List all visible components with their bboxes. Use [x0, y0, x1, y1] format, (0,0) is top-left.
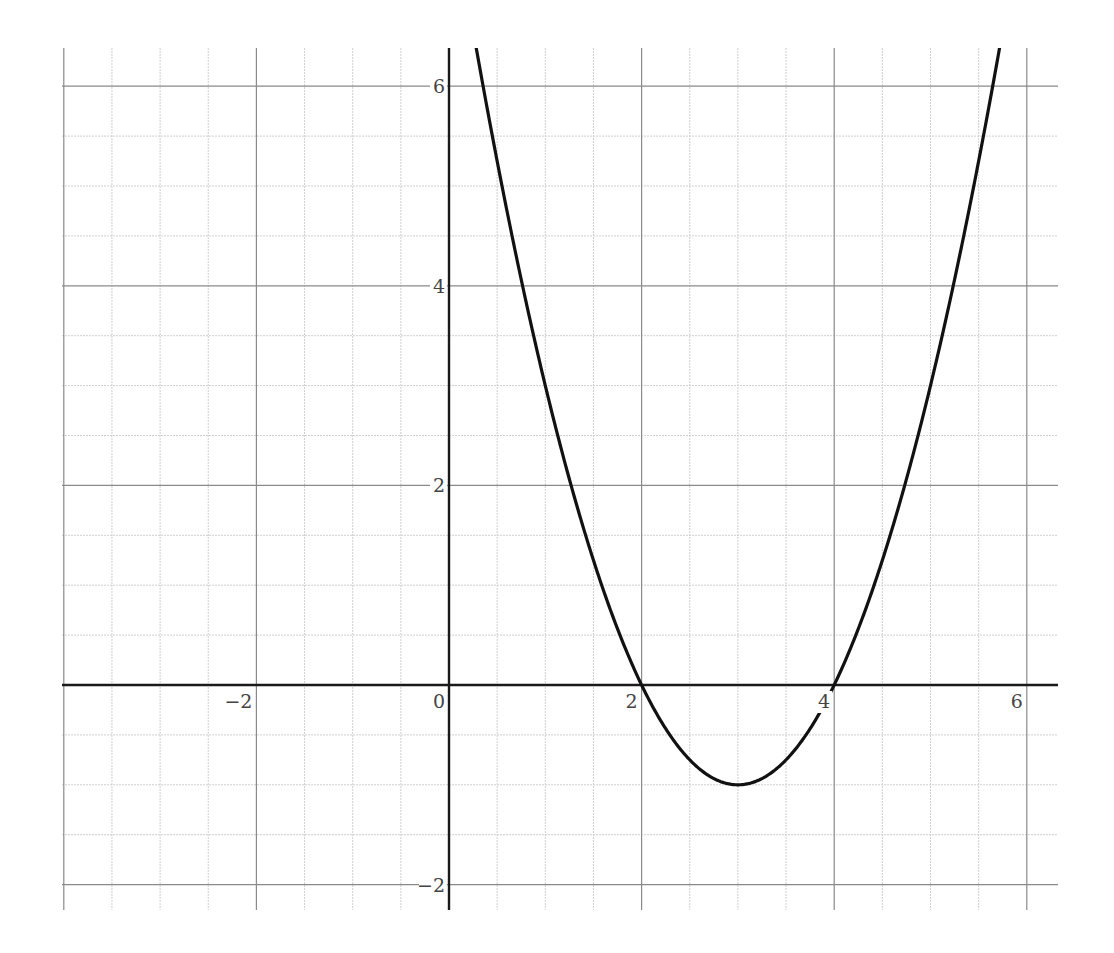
- x-tick-label: 6: [1011, 690, 1023, 712]
- x-tick-label: 2: [626, 690, 638, 712]
- y-tick-label: 2: [433, 474, 445, 496]
- axes: [62, 48, 1058, 910]
- minor-grid: [62, 48, 1058, 910]
- x-tick-label: 4: [818, 690, 830, 712]
- x-tick-label: 0: [433, 690, 445, 712]
- y-tick-label: 4: [433, 275, 445, 297]
- major-grid: [62, 48, 1058, 910]
- x-tick-label: −2: [224, 690, 252, 712]
- function-plot: −20246−2246: [0, 0, 1114, 953]
- y-tick-label: −2: [417, 874, 445, 896]
- parabola-curve: [468, 0, 1017, 785]
- curve-path: [468, 0, 1017, 785]
- y-tick-label: 6: [433, 75, 445, 97]
